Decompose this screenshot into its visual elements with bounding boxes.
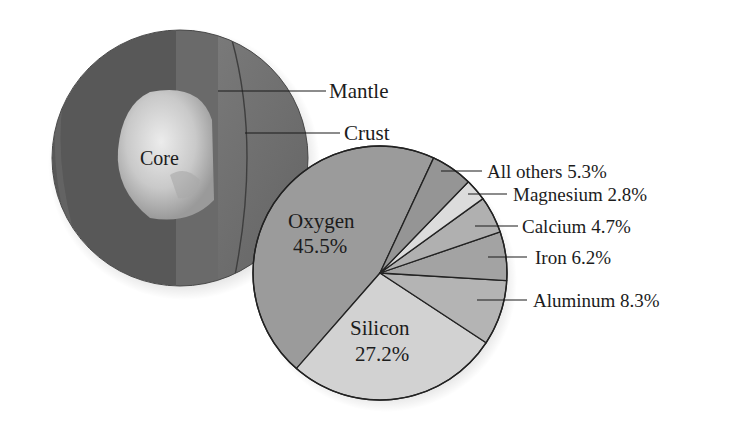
oxygen-name-label: Oxygen xyxy=(288,209,355,233)
silicon-name-label: Silicon xyxy=(350,316,410,340)
mantle-label: Mantle xyxy=(329,79,388,103)
composition-pie-chart: Oxygen 45.5% Silicon 27.2% All others 5.… xyxy=(253,146,660,412)
magnesium-label: Magnesium 2.8% xyxy=(513,184,647,205)
crust-label: Crust xyxy=(344,121,390,145)
earth-crust-composition-figure: Core Mantle Crust Oxygen 45.5% Silicon 2… xyxy=(0,0,737,421)
oxygen-value-label: 45.5% xyxy=(293,234,347,258)
aluminum-label: Aluminum 8.3% xyxy=(533,290,660,311)
calcium-label: Calcium 4.7% xyxy=(522,216,631,237)
others-label: All others 5.3% xyxy=(487,161,607,182)
iron-label: Iron 6.2% xyxy=(535,247,611,268)
core-label: Core xyxy=(140,147,179,169)
silicon-value-label: 27.2% xyxy=(355,342,409,366)
